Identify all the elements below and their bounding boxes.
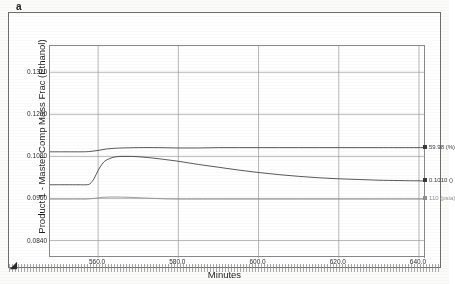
y-tick-label: 0.1320 — [27, 68, 47, 75]
series-end-label-text: 0.1010 () — [428, 177, 453, 183]
scroll-thumb-icon[interactable]: ◢ — [9, 260, 18, 271]
horizontal-scrollbar[interactable] — [9, 264, 440, 272]
chart-window: Product 1 - Master Comp Mass Frac (Ethan… — [8, 12, 441, 268]
y-tick-label: 0.1200 — [27, 110, 47, 117]
plot-area — [49, 45, 424, 257]
y-tick-label: 0.1080 — [27, 152, 47, 159]
y-tick-label: 0.0840 — [27, 236, 47, 243]
series-end-label: 110 (psia) — [428, 195, 455, 201]
series-end-label-text: 59.98 (%) — [428, 144, 455, 150]
series-end-label: 0.1010 () — [428, 177, 453, 183]
plot-right-axis-line — [424, 45, 425, 258]
series-end-label-text: 110 (psia) — [428, 195, 455, 201]
chart-svg — [50, 46, 425, 258]
series-end-label: 59.98 (%) — [428, 144, 455, 150]
series-marker-icon — [423, 196, 427, 200]
series-marker-icon — [423, 145, 427, 149]
panel-letter-label: a — [16, 1, 22, 12]
y-tick-label: 0.0960 — [27, 194, 47, 201]
y-axis-tick-labels: 0.13200.12000.10800.09600.0840 — [9, 45, 47, 257]
series-marker-icon — [423, 178, 427, 182]
